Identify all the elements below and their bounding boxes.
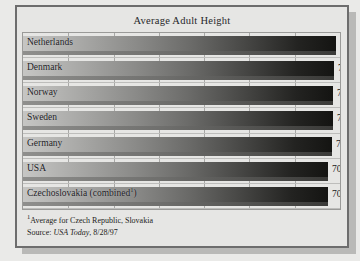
bar [23,86,333,105]
bar [23,111,333,130]
footnote-block: 1Average for Czech Republic, Slovakia So… [27,215,153,238]
category-label: USA [27,163,46,173]
chart-row: Germany71.6 inches [23,134,340,159]
source-date: , 8/28/97 [89,228,117,237]
chart-row: Norway71.9 inches [23,83,340,108]
bar-shadow [23,51,336,55]
source-prefix: Source: [27,228,53,237]
category-label: Czechoslovakia (combined1) [27,188,137,198]
bar [23,61,334,80]
value-label: 71.9 inches [337,88,341,98]
bar-shadow [23,152,332,156]
plot-area: Netherlands72.6 inchesDenmark72.2 inches… [22,32,341,210]
page-title: Average Adult Height [17,15,347,26]
bar-fill [23,137,332,152]
chart-row: Netherlands72.6 inches [23,33,340,58]
bar-shadow [23,177,328,181]
chart-row: Denmark72.2 inches [23,58,340,83]
footnote-marker: 1 [130,186,133,193]
chart-row: Czechoslovakia (combined1)70.8 inches [23,184,340,209]
chart-row: Sweden71.8 inches [23,108,340,133]
bar-fill [23,111,333,126]
footnote-note-text: Average for Czech Republic, Slovakia [30,216,153,225]
category-label: Norway [27,87,58,97]
value-label: 71.6 inches [336,139,341,149]
source-publication: USA Today [53,228,89,237]
bar-shadow [23,76,334,80]
category-label: Germany [27,138,62,148]
value-label: 72.2 inches [338,63,341,73]
bar-fill [23,61,334,76]
bar [23,162,328,181]
bar [23,137,332,156]
category-label: Sweden [27,112,57,122]
bar-shadow [23,126,333,130]
category-label: Denmark [27,62,62,72]
row-separator [23,208,340,209]
value-label: 70.8 inches [332,164,341,174]
footnote-note: 1Average for Czech Republic, Slovakia [27,215,153,227]
chart-panel: Average Adult Height Netherlands72.6 inc… [15,5,349,248]
value-label: 71.8 inches [337,113,341,123]
figure-root: Average Adult Height Netherlands72.6 inc… [0,0,360,261]
value-label: 70.8 inches [332,189,341,199]
footnote-source: Source: USA Today, 8/28/97 [27,227,153,239]
bar-shadow [23,202,328,206]
value-label: 72.6 inches [340,38,341,48]
category-label: Netherlands [27,37,73,47]
chart-row: USA70.8 inches [23,159,340,184]
bar-fill [23,162,328,177]
bar-shadow [23,101,333,105]
bar-fill [23,86,333,101]
